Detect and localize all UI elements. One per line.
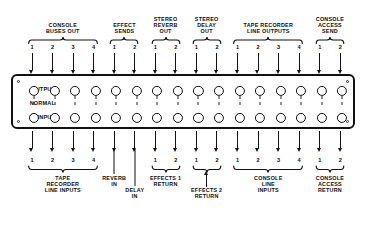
top-number-4-2: 2: [210, 44, 224, 50]
jack-output-5[interactable]: [111, 85, 121, 95]
normal-link-6: [136, 96, 137, 105]
bottom-group-stem-3: [134, 149, 135, 186]
bottom-number-1-1: 1: [25, 157, 39, 163]
normal-link-8: [177, 96, 178, 105]
normal-link-7: [157, 96, 158, 105]
screw-top-left: [17, 80, 20, 83]
jack-input-7[interactable]: [152, 112, 162, 122]
jack-input-8[interactable]: [173, 112, 183, 122]
jack-output-6[interactable]: [132, 85, 142, 95]
top-number-1-4: 4: [87, 44, 101, 50]
jack-output-14[interactable]: [296, 85, 306, 95]
jack-output-13[interactable]: [276, 85, 286, 95]
top-group-brace-5: [231, 36, 306, 45]
jack-input-10[interactable]: [214, 112, 224, 122]
screw-bottom-left: [17, 120, 20, 123]
normal-link-1: [34, 96, 35, 105]
row-label-normal: NORMAL: [21, 100, 55, 106]
top-number-5-3: 3: [272, 44, 286, 50]
bottom-number-6-1: 1: [231, 157, 245, 163]
bottom-number-4-1: 1: [148, 157, 162, 163]
bottom-group-brace-4: [149, 165, 183, 174]
bottom-group-stem-2: [114, 149, 115, 174]
bottom-number-6-4: 4: [292, 157, 306, 163]
jack-output-11[interactable]: [234, 85, 244, 95]
patchbay-panel: OUTPUT NORMAL INPUT: [11, 74, 355, 129]
jack-output-4[interactable]: [91, 85, 101, 95]
screw-bottom-right: [346, 120, 349, 123]
jack-input-14[interactable]: [296, 112, 306, 122]
bottom-number-4-2: 2: [169, 157, 183, 163]
top-number-5-4: 4: [292, 44, 306, 50]
top-number-2-2: 2: [128, 44, 142, 50]
bottom-number-7-2: 2: [333, 157, 347, 163]
jack-output-16[interactable]: [337, 85, 347, 95]
normal-link-16: [342, 96, 343, 105]
top-number-5-2: 2: [251, 44, 265, 50]
jack-input-3[interactable]: [70, 112, 80, 122]
jack-input-4[interactable]: [91, 112, 101, 122]
top-group-brace-1: [25, 36, 100, 45]
jack-input-2[interactable]: [49, 112, 59, 122]
bottom-group-label-4: EFFECTS 1 RETURN: [138, 175, 193, 187]
bottom-group-brace-7: [313, 165, 347, 174]
bottom-number-5-2: 2: [210, 157, 224, 163]
bottom-group-brace-6: [231, 165, 306, 174]
normal-link-15: [321, 96, 322, 105]
top-number-5-1: 1: [231, 44, 245, 50]
jack-output-7[interactable]: [152, 85, 162, 95]
jack-input-11[interactable]: [234, 112, 244, 122]
bottom-number-6-3: 3: [272, 157, 286, 163]
bottom-number-6-2: 2: [251, 157, 265, 163]
normal-link-9: [198, 96, 199, 105]
bottom-group-brace-1: [25, 165, 100, 174]
bottom-group-label-3: DELAY IN: [114, 187, 156, 199]
jack-output-9[interactable]: [193, 85, 203, 95]
jack-input-12[interactable]: [255, 112, 265, 122]
top-number-3-2: 2: [169, 44, 183, 50]
top-group-brace-2: [108, 36, 142, 45]
top-number-6-1: 1: [313, 44, 327, 50]
bottom-number-1-4: 4: [87, 157, 101, 163]
bottom-number-1-2: 2: [46, 157, 60, 163]
jack-output-10[interactable]: [214, 85, 224, 95]
screw-top-right: [346, 80, 349, 83]
bottom-number-1-3: 3: [66, 157, 80, 163]
normal-link-11: [239, 96, 240, 105]
jack-output-15[interactable]: [317, 85, 327, 95]
patchbay-diagram: CONSOLE BUSES OUTEFFECT SENDSSTEREO REVE…: [0, 0, 366, 225]
normal-link-14: [301, 96, 302, 105]
bottom-group-label-7: CONSOLE ACCESS RETURN: [303, 175, 358, 193]
jack-output-2[interactable]: [49, 85, 59, 95]
top-group-brace-4: [190, 36, 224, 45]
top-number-2-1: 1: [107, 44, 121, 50]
bottom-group-label-2: REVERB IN: [93, 175, 135, 187]
top-number-4-1: 1: [189, 44, 203, 50]
bottom-number-5-1: 1: [189, 157, 203, 163]
jack-input-9[interactable]: [193, 112, 203, 122]
jack-output-3[interactable]: [70, 85, 80, 95]
top-number-3-1: 1: [148, 44, 162, 50]
jack-input-6[interactable]: [132, 112, 142, 122]
jack-input-1[interactable]: [29, 112, 39, 122]
jack-input-15[interactable]: [317, 112, 327, 122]
top-number-1-3: 3: [66, 44, 80, 50]
normal-link-5: [116, 96, 117, 105]
top-number-1-2: 2: [46, 44, 60, 50]
top-group-brace-6: [313, 36, 347, 45]
normal-link-3: [75, 96, 76, 105]
bottom-number-7-1: 1: [313, 157, 327, 163]
jack-input-13[interactable]: [276, 112, 286, 122]
jack-output-1[interactable]: [29, 85, 39, 95]
jack-output-12[interactable]: [255, 85, 265, 95]
jack-output-8[interactable]: [173, 85, 183, 95]
normal-link-10: [218, 96, 219, 105]
top-group-label-6: CONSOLE ACCESS SEND: [303, 16, 358, 34]
top-number-1-1: 1: [25, 44, 39, 50]
normal-link-13: [280, 96, 281, 105]
normal-link-12: [260, 96, 261, 105]
jack-input-5[interactable]: [111, 112, 121, 122]
top-group-brace-3: [149, 36, 183, 45]
normal-link-2: [54, 96, 55, 105]
normal-link-4: [95, 96, 96, 105]
